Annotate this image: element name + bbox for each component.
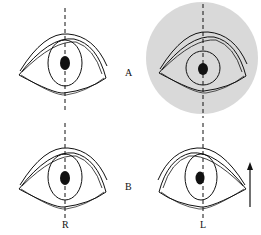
pupil <box>60 171 70 185</box>
diagram-svg: A B R L <box>0 0 261 235</box>
row-label-a: A <box>125 67 133 78</box>
row-label-b: B <box>125 181 132 192</box>
eye-b-left <box>158 123 246 218</box>
highlight-circle <box>146 2 258 114</box>
arrow-up-icon <box>247 162 253 207</box>
column-label-l: L <box>200 219 206 230</box>
column-label-r: R <box>62 219 69 230</box>
pupil <box>60 56 70 70</box>
eye-a-right <box>19 8 107 113</box>
eye-b-right <box>19 123 107 218</box>
pupil <box>198 63 208 75</box>
eye-diagram: A B R L <box>0 0 261 235</box>
pupil <box>196 172 205 185</box>
